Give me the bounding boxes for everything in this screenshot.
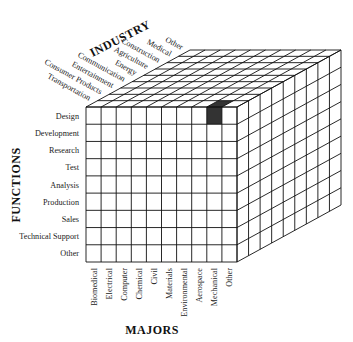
major-label: Other (225, 268, 234, 287)
highlighted-cell-front (207, 107, 222, 124)
function-label: Design (56, 112, 79, 121)
function-label: Sales (62, 215, 79, 224)
functions-axis-title: FUNCTIONS (9, 147, 23, 222)
major-label: Materials (165, 268, 174, 299)
major-label: Civil (150, 267, 159, 284)
matrix-cube-diagram: DesignDevelopmentResearchTestAnalysisPro… (0, 0, 353, 342)
major-label: Electrical (105, 267, 114, 299)
major-label: Chemical (135, 267, 144, 299)
function-label: Test (65, 163, 79, 172)
function-label: Other (60, 249, 79, 258)
major-label: Aerospace (195, 268, 204, 303)
major-label: Mechanical (210, 267, 219, 306)
function-label: Research (49, 146, 79, 155)
function-label: Analysis (50, 181, 79, 190)
major-label: Environmental (180, 267, 189, 316)
function-label: Development (35, 129, 80, 138)
major-label: Biomedical (90, 267, 99, 305)
majors-axis-title: MAJORS (125, 323, 179, 337)
function-label: Production (43, 198, 79, 207)
function-label: Technical Support (19, 232, 79, 241)
major-label: Computer (120, 268, 129, 301)
